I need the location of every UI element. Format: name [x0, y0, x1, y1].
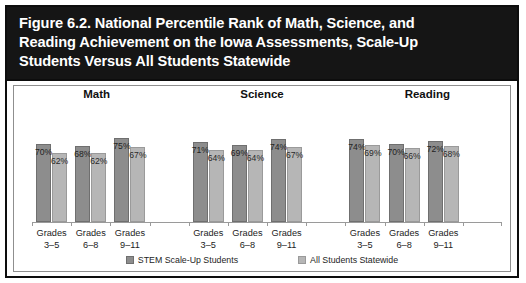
- bar-reading-2-series2[interactable]: 68%: [444, 146, 459, 222]
- legend-item-stem[interactable]: STEM Scale-Up Students: [126, 255, 238, 265]
- legend-label-stem: STEM Scale-Up Students: [138, 255, 238, 265]
- bar-math-2-series2[interactable]: 67%: [130, 147, 145, 222]
- bar-groups: 70%62%68%62%75%67%71%64%69%64%74%67%74%6…: [32, 110, 502, 222]
- category-label-line1: Grades: [71, 228, 110, 240]
- category-label-science-1: Grades6–8: [228, 228, 267, 251]
- bar-reading-1-series2[interactable]: 66%: [405, 148, 420, 222]
- bar-reading-1-series1[interactable]: 70%: [389, 144, 404, 222]
- category-label-line2: 6–8: [71, 240, 110, 252]
- bar-slot-reading-2: 72%68%: [424, 110, 463, 222]
- category-label-math-2: Grades9–11: [110, 228, 149, 251]
- axis-tick: [189, 222, 228, 226]
- bar-value-label: 62%: [90, 156, 107, 166]
- legend-swatch-icon-statewide: [298, 256, 306, 264]
- axis-tick: [424, 222, 463, 226]
- bar-slot-math-1: 68%62%: [71, 110, 110, 222]
- tick-group-reading: [345, 222, 502, 226]
- bar-math-1-series2[interactable]: 62%: [91, 153, 106, 222]
- axis-tick: [306, 222, 345, 226]
- bar-group-reading: 74%69%70%66%72%68%: [345, 110, 502, 222]
- bar-science-2-series1[interactable]: 74%: [271, 139, 286, 222]
- bar-value-label: 67%: [286, 150, 303, 160]
- category-group-science: Grades3–5Grades6–8Grades9–11: [189, 228, 346, 251]
- bar-science-1-series2[interactable]: 64%: [248, 150, 263, 222]
- axis-tick: [463, 222, 502, 226]
- category-label-row: Grades3–5Grades6–8Grades9–11Grades3–5Gra…: [32, 228, 502, 251]
- bar-science-0-series2[interactable]: 64%: [209, 150, 224, 222]
- axis-tick: [150, 222, 189, 226]
- category-label-reading-0: Grades3–5: [345, 228, 384, 251]
- bar-value-label: 64%: [208, 153, 225, 163]
- bar-math-2-series1[interactable]: 75%: [114, 138, 129, 222]
- category-label-line1: Grades: [32, 228, 71, 240]
- category-label-math-0: Grades3–5: [32, 228, 71, 251]
- category-label-line2: 3–5: [345, 240, 384, 252]
- bar-value-label: 69%: [231, 148, 248, 158]
- bar-slot-reading-0: 74%69%: [345, 110, 384, 222]
- category-label-math-1: Grades6–8: [71, 228, 110, 251]
- axis-tick: [32, 222, 71, 226]
- bar-math-0-series1[interactable]: 70%: [36, 144, 51, 222]
- bar-slot-math-2: 75%67%: [110, 110, 149, 222]
- bar-science-0-series1[interactable]: 71%: [193, 142, 208, 222]
- axis-tick: [228, 222, 267, 226]
- figure-title-line-2: Reading Achievement on the Iowa Assessme…: [19, 33, 505, 52]
- figure-title-line-3: Students Versus All Students Statewide: [19, 52, 505, 71]
- bar-value-label: 66%: [403, 151, 420, 161]
- category-label-line1: Grades: [424, 228, 463, 240]
- tick-group-math: [32, 222, 189, 226]
- bar-value-label: 68%: [74, 149, 91, 159]
- category-label-science-0: Grades3–5: [189, 228, 228, 251]
- category-label-line2: 6–8: [385, 240, 424, 252]
- bar-math-0-series2[interactable]: 62%: [52, 153, 67, 222]
- category-label-line1: Grades: [228, 228, 267, 240]
- bar-slot-science-2: 74%67%: [267, 110, 306, 222]
- category-label-line1: Grades: [267, 228, 306, 240]
- axis-tick: [71, 222, 110, 226]
- legend-label-statewide: All Students Statewide: [310, 255, 398, 265]
- group-title-row: Math Science Reading: [14, 88, 510, 100]
- category-label-line2: 9–11: [110, 240, 149, 252]
- category-label-line1: Grades: [385, 228, 424, 240]
- category-label-reading-2: Grades9–11: [424, 228, 463, 251]
- bar-science-2-series2[interactable]: 67%: [287, 147, 302, 222]
- bar-value-label: 74%: [348, 142, 365, 152]
- bar-value-label: 68%: [443, 149, 460, 159]
- bar-group-math: 70%62%68%62%75%67%: [32, 110, 189, 222]
- category-label-line2: 6–8: [228, 240, 267, 252]
- bar-value-label: 75%: [113, 141, 130, 151]
- figure-title-line-1: Figure 6.2. National Percentile Rank of …: [19, 14, 505, 33]
- tick-group-science: [189, 222, 346, 226]
- bar-science-1-series1[interactable]: 69%: [232, 145, 247, 222]
- bar-reading-0-series2[interactable]: 69%: [365, 145, 380, 222]
- bar-value-label: 74%: [270, 142, 287, 152]
- bar-reading-2-series1[interactable]: 72%: [428, 141, 443, 222]
- plot-frame: Math Science Reading 70%62%68%62%75%67%7…: [13, 85, 511, 272]
- category-label-line2: 9–11: [267, 240, 306, 252]
- bar-value-label: 71%: [192, 145, 209, 155]
- group-title-math: Math: [14, 88, 179, 100]
- bar-value-label: 64%: [247, 153, 264, 163]
- bar-value-label: 69%: [364, 148, 381, 158]
- axis-tick: [110, 222, 149, 226]
- figure-title-band: Figure 6.2. National Percentile Rank of …: [7, 7, 517, 79]
- bar-slot-science-0: 71%64%: [189, 110, 228, 222]
- category-label-science-2: Grades9–11: [267, 228, 306, 251]
- legend-item-statewide[interactable]: All Students Statewide: [298, 255, 398, 265]
- chart-legend: STEM Scale-Up Students All Students Stat…: [14, 255, 510, 265]
- bar-slot-math-0: 70%62%: [32, 110, 71, 222]
- legend-swatch-icon-stem: [126, 256, 134, 264]
- bar-reading-0-series1[interactable]: 74%: [349, 139, 364, 222]
- x-axis-ticks: [32, 222, 502, 226]
- bar-value-label: 70%: [35, 147, 52, 157]
- category-label-line2: 3–5: [32, 240, 71, 252]
- bar-math-1-series1[interactable]: 68%: [75, 146, 90, 222]
- category-group-reading: Grades3–5Grades6–8Grades9–11: [345, 228, 502, 251]
- category-label-line1: Grades: [189, 228, 228, 240]
- bar-group-science: 71%64%69%64%74%67%: [189, 110, 346, 222]
- axis-tick: [267, 222, 306, 226]
- category-label-reading-1: Grades6–8: [385, 228, 424, 251]
- figure-container: Figure 6.2. National Percentile Rank of …: [5, 5, 519, 278]
- chart-panel: Math Science Reading 70%62%68%62%75%67%7…: [7, 79, 517, 276]
- plot-area: 70%62%68%62%75%67%71%64%69%64%74%67%74%6…: [32, 110, 502, 222]
